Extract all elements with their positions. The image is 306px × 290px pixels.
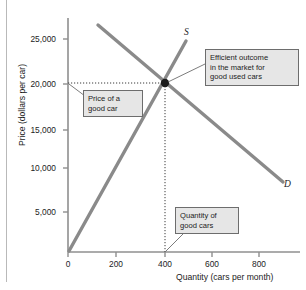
x-tick-label-200: 200	[96, 259, 136, 269]
x-tick-label-600: 600	[192, 259, 232, 269]
x-tick-label-0: 0	[48, 259, 88, 269]
equilibrium-point-marker	[161, 79, 169, 87]
economics-supply-demand-figure: 25,000 20,000 15,000 10,000 5,000 0 200 …	[0, 0, 306, 290]
y-tick-label-5000: 5,000	[10, 207, 56, 217]
annotation-price-of-good-car: Price of a good car	[83, 90, 143, 117]
y-axis-title: Price (dollars per car)	[17, 45, 27, 165]
demand-curve-label: D	[284, 179, 291, 189]
x-tick-label-800: 800	[239, 259, 279, 269]
x-tick-label-400: 400	[145, 259, 185, 269]
supply-curve	[69, 41, 186, 251]
x-axis-title: Quantity (cars per month)	[176, 272, 273, 282]
annotation-efficient-outcome: Efficient outcome in the market for good…	[205, 49, 299, 86]
supply-curve-label: S	[184, 27, 189, 37]
annotation-quantity-of-good-cars: Quantity of good cars	[175, 207, 239, 234]
y-tick-label-25000: 25,000	[10, 34, 56, 44]
